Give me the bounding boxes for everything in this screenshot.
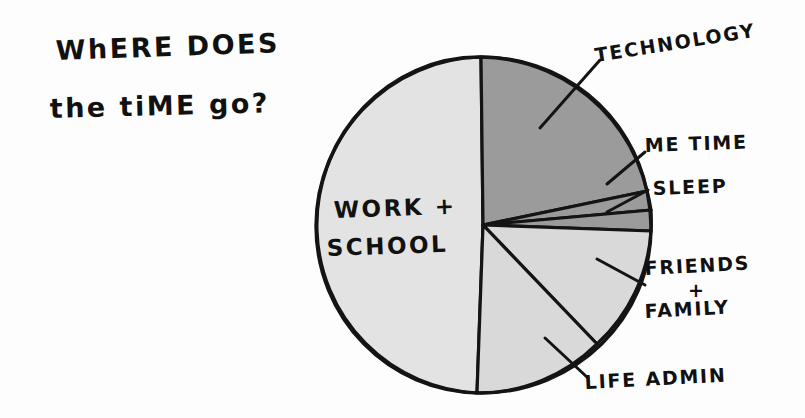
label-technology: TECHNOLOGY [593, 19, 757, 66]
pie-wedges [316, 57, 651, 393]
work-school-line-1: WORK + [333, 193, 457, 223]
chart-svg: WhERE DOES the tiME go? WORK + SCHOOL TE… [0, 0, 805, 418]
label-life-admin: LIFE ADMIN [584, 364, 727, 393]
title-line-2: the tiME go? [49, 87, 270, 124]
label-me-time: ME TIME [644, 130, 748, 156]
chart-title: WhERE DOES the tiME go? [49, 27, 280, 124]
label-friends-family: FRIENDS + FAMILY [644, 251, 751, 321]
pie-chart-illustration: WhERE DOES the tiME go? WORK + SCHOOL TE… [0, 0, 805, 418]
friends-family-line-2: FAMILY [644, 296, 730, 322]
title-line-1: WhERE DOES [55, 27, 280, 66]
friends-family-line-1: FRIENDS [644, 251, 751, 278]
work-school-line-2: SCHOOL [326, 231, 448, 261]
label-sleep: SLEEP [652, 174, 727, 199]
slice-work-school[interactable] [317, 57, 483, 393]
